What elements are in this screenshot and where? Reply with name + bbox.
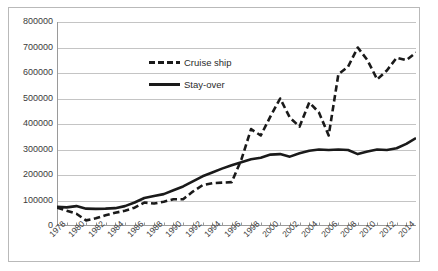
legend-item-cruise-ship: Cruise ship bbox=[148, 54, 232, 70]
y-axis-tick-label: 200000 bbox=[23, 170, 53, 179]
y-axis-tick-label: 600000 bbox=[23, 68, 53, 77]
chart-legend: Cruise ship Stay-over bbox=[148, 54, 258, 96]
legend-label-cruise-ship: Cruise ship bbox=[184, 57, 232, 68]
y-axis-tick-label: 500000 bbox=[23, 94, 53, 103]
y-axis-tick-label: 100000 bbox=[23, 196, 53, 205]
legend-item-stay-over: Stay-over bbox=[148, 76, 225, 92]
chart-container: 0100000200000300000400000500000600000700… bbox=[0, 0, 438, 271]
y-axis-tick-label: 700000 bbox=[23, 43, 53, 52]
x-axis-tick-labels: 1978198019821984198619881990199219941996… bbox=[57, 228, 416, 268]
y-axis-tick-label: 800000 bbox=[23, 17, 53, 26]
chart-plot-svg bbox=[57, 22, 416, 226]
plot-area bbox=[57, 22, 416, 226]
gridlines bbox=[57, 23, 416, 202]
legend-swatch-solid-icon bbox=[148, 79, 181, 90]
legend-label-stay-over: Stay-over bbox=[184, 79, 225, 90]
y-axis-tick-label: 300000 bbox=[23, 145, 53, 154]
legend-swatch-dashed-icon bbox=[148, 57, 181, 68]
y-axis-tick-labels: 0100000200000300000400000500000600000700… bbox=[0, 0, 53, 271]
y-axis-tick-label: 400000 bbox=[23, 119, 53, 128]
